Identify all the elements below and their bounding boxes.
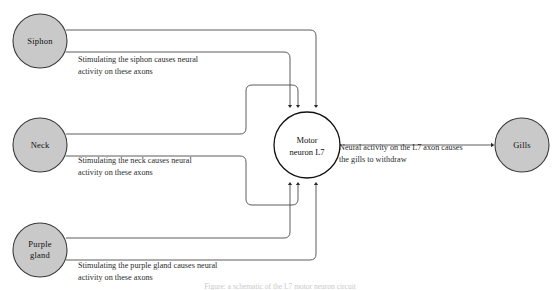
annotation-siphon-line2: activity on these axons [78,67,153,76]
annotation-output-line1: Neural activity on the L7 axon causes [339,143,463,152]
siphon-label: Siphon [27,36,53,46]
motor-neuron-circle[interactable] [274,112,340,178]
purple-gland-axon-bundle [66,184,316,260]
neck-axon-bundle [66,85,298,205]
annotation-output: Neural activity on the L7 axon causes th… [339,143,463,164]
purple-gland-axon-2 [66,184,290,238]
inner-axon-pair [218,66,298,99]
annotation-neck-line2: activity on these axons [78,168,153,177]
annotation-siphon: Stimulating the siphon causes neural act… [78,55,199,76]
purple-gland-label-line2: gland [30,250,50,260]
node-gills[interactable]: Gills [495,118,549,172]
node-siphon[interactable]: Siphon [13,14,67,68]
motor-neuron-label-line1: Motor [296,135,317,145]
motor-neuron-label-line2: neuron L7 [289,147,324,157]
purple-gland-label-line1: Purple [28,239,51,249]
annotation-output-line2: the gills to withdraw [339,155,407,164]
annotation-neck: Stimulating the neck causes neural activ… [78,156,192,177]
annotation-purple-gland: Stimulating the purple gland causes neur… [78,261,218,282]
neural-circuit-figure: Siphon Neck Purple gland Motor neuron L7… [0,0,560,290]
node-motor-neuron-l7[interactable]: Motor neuron L7 [274,112,340,178]
node-purple-gland[interactable]: Purple gland [13,223,67,277]
annotation-purple-gland-line2: activity on these axons [78,273,153,282]
neck-axon-1 [66,85,298,134]
gills-label: Gills [513,140,531,150]
figure-caption: Figure: a schematic of the L7 motor neur… [204,282,357,290]
annotation-siphon-line1: Stimulating the siphon causes neural [78,55,199,64]
purple-gland-axon-1 [66,184,316,260]
annotation-purple-gland-line1: Stimulating the purple gland causes neur… [78,261,218,270]
neck-label: Neck [31,140,50,150]
node-neck[interactable]: Neck [13,118,67,172]
annotation-neck-line1: Stimulating the neck causes neural [78,156,192,165]
diagram-canvas: Siphon Neck Purple gland Motor neuron L7… [0,0,560,290]
